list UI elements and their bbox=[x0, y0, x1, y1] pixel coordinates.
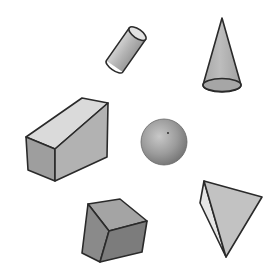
rectangular-prism-shape bbox=[26, 98, 108, 181]
geometric-solids-illustration bbox=[0, 0, 274, 274]
cube-shape bbox=[82, 199, 147, 262]
cylinder-shape bbox=[104, 24, 148, 75]
shapes-drawing bbox=[0, 0, 274, 274]
tetrahedron-shape bbox=[200, 181, 262, 257]
cone-shape bbox=[203, 18, 241, 92]
sphere-shape bbox=[141, 119, 187, 165]
